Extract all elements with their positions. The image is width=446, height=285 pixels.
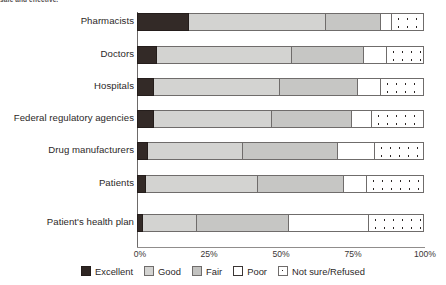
x-axis-baseline: [137, 247, 425, 248]
segment-fair-4: [243, 142, 338, 160]
segment-excellent-4: [137, 142, 148, 160]
segment-poor-2: [358, 78, 381, 96]
segment-not-sure-0: [392, 13, 424, 31]
segment-fair-2: [280, 78, 357, 96]
segment-poor-4: [338, 142, 375, 160]
chart-row: Patients: [0, 175, 446, 194]
segment-fair-1: [292, 46, 364, 64]
legend-item-excellent: Excellent: [81, 266, 133, 277]
stacked-bar-2: [137, 78, 424, 96]
segment-excellent-1: [137, 46, 157, 64]
chart-row: Doctors: [0, 46, 446, 65]
stacked-bar-3: [137, 110, 424, 128]
category-label-5: Patients: [0, 177, 134, 188]
segment-good-5: [146, 175, 258, 193]
stacked-bar-6: [137, 214, 424, 232]
legend-label-not-sure: Not sure/Refused: [292, 266, 365, 277]
x-tick-2: 50%: [272, 249, 289, 259]
clipped-caption: safe and effective.: [0, 0, 200, 6]
segment-poor-3: [352, 110, 372, 128]
category-label-6: Patient's health plan: [0, 216, 134, 227]
legend-item-not-sure: Not sure/Refused: [278, 266, 365, 277]
legend-swatch-excellent-icon: [81, 266, 91, 276]
category-label-4: Drug manufacturers: [0, 144, 134, 155]
legend-label-fair: Fair: [206, 266, 222, 277]
category-label-0: Pharmacists: [0, 15, 134, 26]
chart-row: Patient's health plan: [0, 214, 446, 233]
legend-swatch-fair-icon: [192, 266, 202, 276]
chart-row: Federal regulatory agencies: [0, 110, 446, 129]
x-tick-4: 100%: [414, 249, 436, 259]
stacked-bar-1: [137, 46, 424, 64]
chart-legend: Excellent Good Fair Poor Not sure/Refuse…: [0, 263, 446, 279]
legend-label-excellent: Excellent: [95, 266, 133, 277]
segment-fair-6: [197, 214, 289, 232]
segment-poor-0: [381, 13, 392, 31]
stacked-bar-chart: Pharmacists Doctors Hospitals: [0, 10, 446, 255]
category-label-1: Doctors: [0, 48, 134, 59]
segment-not-sure-2: [381, 78, 424, 96]
segment-not-sure-3: [372, 110, 424, 128]
segment-not-sure-5: [367, 175, 424, 193]
legend-label-good: Good: [158, 266, 181, 277]
segment-good-3: [154, 110, 272, 128]
segment-excellent-2: [137, 78, 154, 96]
stacked-bar-4: [137, 142, 424, 160]
category-label-3: Federal regulatory agencies: [0, 112, 134, 123]
segment-poor-5: [344, 175, 367, 193]
x-tick-3: 75%: [344, 249, 361, 259]
segment-good-0: [189, 13, 327, 31]
segment-good-4: [148, 142, 243, 160]
stacked-bar-5: [137, 175, 424, 193]
segment-good-1: [157, 46, 292, 64]
segment-not-sure-4: [375, 142, 424, 160]
x-tick-1: 25%: [200, 249, 217, 259]
legend-swatch-not-sure-icon: [278, 266, 288, 276]
chart-row: Drug manufacturers: [0, 142, 446, 161]
segment-excellent-5: [137, 175, 146, 193]
segment-fair-5: [258, 175, 344, 193]
segment-fair-3: [272, 110, 352, 128]
segment-excellent-0: [137, 13, 189, 31]
legend-item-poor: Poor: [233, 266, 267, 277]
segment-poor-6: [289, 214, 369, 232]
legend-item-good: Good: [144, 266, 181, 277]
chart-row: Hospitals: [0, 78, 446, 97]
legend-swatch-poor-icon: [233, 266, 243, 276]
segment-good-6: [143, 214, 198, 232]
segment-poor-1: [364, 46, 387, 64]
legend-swatch-good-icon: [144, 266, 154, 276]
category-label-2: Hospitals: [0, 80, 134, 91]
x-tick-0: 0%: [134, 249, 146, 259]
segment-not-sure-6: [369, 214, 424, 232]
segment-excellent-3: [137, 110, 154, 128]
segment-good-2: [154, 78, 280, 96]
segment-fair-0: [326, 13, 381, 31]
chart-row: Pharmacists: [0, 13, 446, 32]
stacked-bar-0: [137, 13, 424, 31]
x-axis-ticks: 0% 25% 50% 75% 100%: [0, 249, 446, 263]
segment-not-sure-1: [387, 46, 424, 64]
legend-item-fair: Fair: [192, 266, 222, 277]
legend-label-poor: Poor: [247, 266, 267, 277]
